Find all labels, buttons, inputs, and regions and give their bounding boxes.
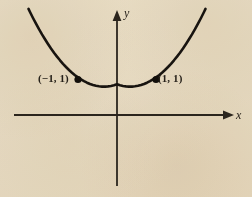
point-marker-left	[74, 76, 81, 83]
y-axis-label: y	[124, 7, 129, 19]
point-label-one-one: (1, 1)	[158, 73, 182, 84]
y-axis-arrowhead	[113, 10, 122, 21]
point-label-minus-one-one: (−1, 1)	[38, 73, 69, 84]
x-axis-arrowhead	[223, 111, 234, 120]
x-axis-label: x	[236, 109, 241, 121]
plot-canvas	[0, 0, 252, 197]
parabola-figure: y x (−1, 1) (1, 1)	[0, 0, 252, 197]
